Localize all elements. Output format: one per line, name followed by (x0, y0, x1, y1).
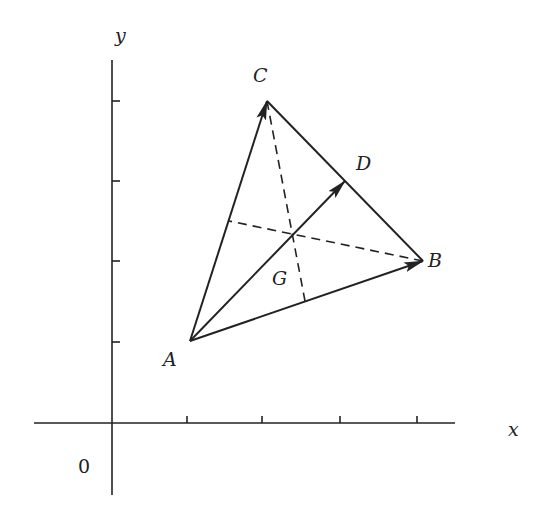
vector-ad (190, 181, 345, 341)
vector-ac (190, 101, 267, 341)
median-b-to-mid-ac (229, 221, 423, 261)
point-label-g: G (272, 267, 287, 289)
point-label-b: B (427, 249, 442, 271)
point-label-a: A (161, 348, 177, 370)
vectors (190, 101, 423, 341)
triangle-centroid-diagram: y x 0 A B C D G (0, 0, 553, 517)
y-axis-label: y (114, 24, 126, 46)
origin-label: 0 (78, 455, 90, 477)
point-label-c: C (253, 64, 268, 86)
x-axis-label: x (508, 418, 519, 440)
axes (34, 60, 455, 495)
vector-ab (190, 261, 423, 341)
point-label-d: D (355, 152, 371, 174)
